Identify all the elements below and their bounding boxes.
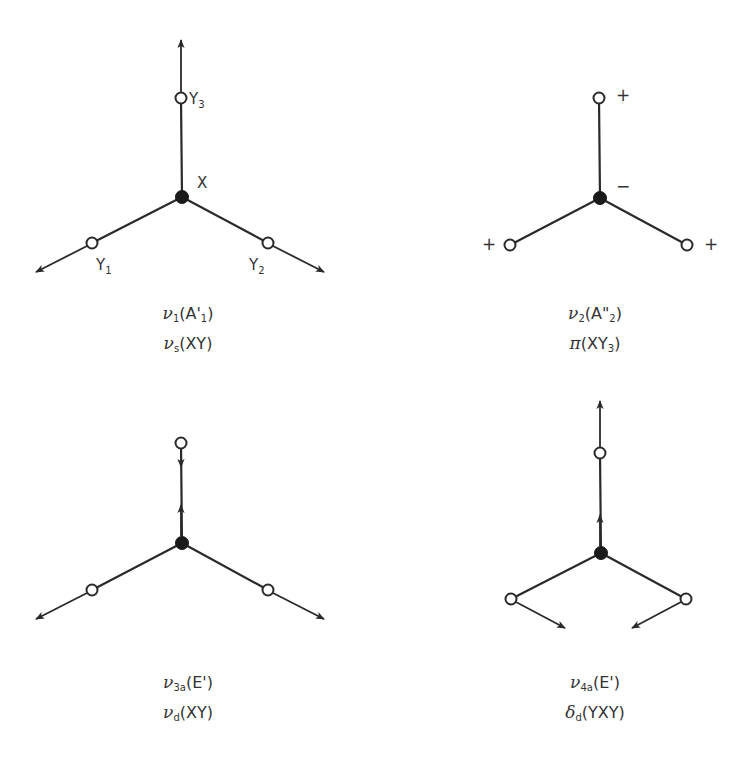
displacement-arrow-y2: [273, 593, 324, 619]
atom-y2: [263, 585, 274, 596]
atom-y1: [87, 238, 98, 249]
atom-y3: [176, 93, 187, 104]
label-y3: Y3: [188, 90, 205, 110]
caption-line-mode: ν3a(E'): [88, 670, 288, 700]
caption-nu2: ν2(A"2) π(XY3): [495, 301, 695, 361]
atom-x: [176, 537, 189, 550]
atom-x: [595, 547, 608, 560]
bond-x-y1: [92, 543, 182, 590]
atom-x: [594, 192, 607, 205]
atom-y2: [681, 594, 692, 605]
bond-x-y2: [601, 553, 686, 599]
caption-line-mode: ν2(A"2): [495, 301, 695, 331]
displacement-arrow-y1: [36, 593, 87, 619]
displacement-arrow-y2: [273, 246, 324, 272]
bond-x-y1: [511, 553, 601, 599]
displacement-arrow-y2: [632, 602, 681, 628]
label-y1: Y1: [95, 256, 112, 276]
panel-nu3a-diagram: [36, 438, 324, 620]
atom-y1: [505, 240, 516, 251]
caption-line-description: δd(YXY): [495, 700, 695, 730]
caption-nu4a: ν4a(E') δd(YXY): [495, 670, 695, 730]
atom-x: [176, 191, 189, 204]
panel-nu2-diagram: + − + +: [482, 85, 718, 254]
bond-x-y1: [510, 198, 600, 245]
sign-minus-center: −: [616, 176, 630, 196]
panel-nu4a-diagram: [506, 401, 692, 628]
atom-y1: [506, 594, 517, 605]
atom-y3: [594, 93, 605, 104]
label-y2: Y2: [248, 256, 265, 276]
caption-line-mode: ν1(A'1): [88, 301, 288, 331]
caption-line-description: νd(XY): [88, 700, 288, 730]
bond-x-y3: [181, 98, 182, 197]
caption-line-description: νs(XY): [88, 331, 288, 361]
atom-y1: [87, 585, 98, 596]
vibrational-modes-figure: Y3 X Y1 Y2 + − + +: [0, 0, 747, 757]
atom-y3: [595, 448, 606, 459]
displacement-arrow-y1: [36, 246, 87, 272]
caption-line-description: π(XY3): [495, 331, 695, 361]
sign-plus-right: +: [704, 234, 718, 254]
atom-y2: [682, 240, 693, 251]
caption-nu1: ν1(A'1) νs(XY): [88, 301, 288, 361]
bond-x-y2: [182, 543, 268, 590]
caption-nu3a: ν3a(E') νd(XY): [88, 670, 288, 730]
atom-y2: [263, 238, 274, 249]
atom-y3: [176, 438, 187, 449]
panel-nu1-diagram: Y3 X Y1 Y2: [36, 40, 324, 276]
displacement-arrow-y1: [516, 602, 565, 628]
bond-x-y1: [92, 197, 182, 243]
bond-x-y3: [599, 98, 600, 198]
bond-x-y2: [600, 198, 687, 245]
sign-plus-left: +: [482, 234, 496, 254]
sign-plus-top: +: [616, 85, 630, 105]
caption-line-mode: ν4a(E'): [495, 670, 695, 700]
label-x: X: [197, 174, 207, 192]
bond-x-y2: [182, 197, 268, 243]
